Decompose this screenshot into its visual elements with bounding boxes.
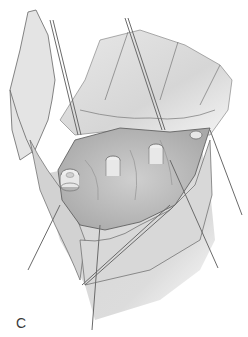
thumb	[10, 10, 55, 160]
panel-label: C	[16, 315, 26, 331]
hand-drawing	[0, 0, 248, 337]
surgical-illustration: C	[0, 0, 248, 337]
